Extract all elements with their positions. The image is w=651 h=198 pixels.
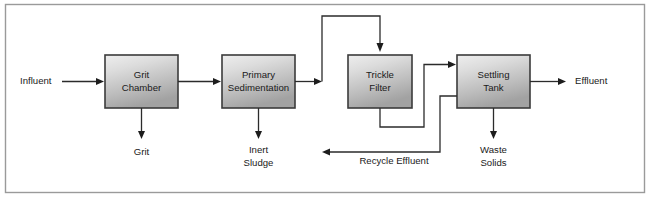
waste-solids-arrow-icon <box>490 131 497 139</box>
effluent-label: Effluent <box>575 75 608 86</box>
inert-sludge-label-line2: Sludge <box>244 157 274 168</box>
grit-chamber-label-line2: Chamber <box>122 82 162 93</box>
trickle-to-settling-arrow-icon <box>448 61 456 68</box>
inert-sludge-arrow-icon <box>255 131 262 139</box>
recycle-effluent-label: Recycle Effluent <box>359 155 428 166</box>
effluent-arrow-icon <box>558 78 566 85</box>
primary-to-junction-arrow-icon <box>314 78 322 85</box>
trickle-filter-label-line1: Trickle <box>366 69 394 80</box>
settling-tank-label-line1: Settling <box>478 69 510 80</box>
stream-waste-solids-out: Waste Solids <box>480 108 507 168</box>
inert-sludge-label-line1: Inert <box>249 144 269 155</box>
diagram-frame <box>6 5 645 193</box>
primary-sedimentation-label-line2: Sedimentation <box>228 82 289 93</box>
influent-label: Influent <box>20 75 52 86</box>
stream-effluent-out: Effluent <box>530 75 608 86</box>
process-flow-diagram: Grit Chamber Primary Sedimentation Trick… <box>0 0 651 198</box>
flow-diagram-canvas: Grit Chamber Primary Sedimentation Trick… <box>0 0 651 198</box>
stream-grit-to-primary <box>178 78 221 85</box>
waste-solids-label-line2: Solids <box>480 157 506 168</box>
unit-grit-chamber: Grit Chamber <box>105 55 178 108</box>
primary-sedimentation-label-line1: Primary <box>242 69 275 80</box>
grit-to-primary-arrow-icon <box>213 78 221 85</box>
influent-arrow-icon <box>96 78 104 85</box>
unit-settling-tank: Settling Tank <box>457 55 530 108</box>
grit-out-arrow-icon <box>138 131 145 139</box>
stream-inert-sludge-out: Inert Sludge <box>244 108 274 168</box>
stream-influent: Influent <box>20 75 104 86</box>
grit-chamber-label-line1: Grit <box>134 69 150 80</box>
trickle-filter-label-line2: Filter <box>369 82 391 93</box>
settling-tank-label-line2: Tank <box>483 82 503 93</box>
stream-primary-to-junction <box>295 78 322 85</box>
stream-grit-out: Grit <box>134 108 150 157</box>
recycle-effluent-arrow-icon <box>322 149 330 156</box>
unit-primary-sedimentation: Primary Sedimentation <box>222 55 295 108</box>
waste-solids-label-line1: Waste <box>480 144 507 155</box>
feed-riser-arrow-icon <box>377 43 384 52</box>
unit-trickle-filter: Trickle Filter <box>348 55 412 108</box>
grit-label: Grit <box>134 146 150 157</box>
